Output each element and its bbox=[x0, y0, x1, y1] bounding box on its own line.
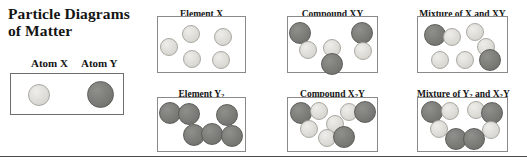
page-title-line2: of Matter bbox=[8, 22, 156, 39]
atom-y-label: Atom Y bbox=[81, 57, 118, 69]
particle-x bbox=[160, 38, 178, 56]
particle-y bbox=[479, 49, 501, 71]
particle-x bbox=[299, 41, 317, 59]
particle-y bbox=[354, 101, 376, 123]
page-title: Particle Diagrams of Matter bbox=[8, 5, 156, 40]
panel-box-element-x bbox=[157, 16, 246, 73]
particle-x bbox=[212, 51, 230, 69]
particle-x bbox=[183, 50, 201, 68]
panel-compound-xy: Compound XY bbox=[287, 9, 378, 73]
page-title-line1: Particle Diagrams bbox=[8, 5, 130, 22]
panel-box-element-y2 bbox=[157, 97, 246, 152]
panel-mixture-y2-x2y: Mixture of Y2 and X2Y bbox=[417, 89, 508, 152]
key-particle-x bbox=[28, 84, 50, 106]
panel-compound-x2y: Compound X2Y bbox=[287, 89, 378, 152]
particle-y bbox=[463, 128, 485, 150]
particle-x bbox=[214, 28, 232, 46]
panel-element-x: Element X bbox=[157, 9, 246, 73]
particle-y bbox=[201, 123, 223, 145]
particle-x bbox=[310, 102, 328, 120]
atom-x-label: Atom X bbox=[31, 57, 68, 69]
particle-diagram-figure: Particle Diagrams of Matter Atom X Atom … bbox=[0, 0, 527, 164]
particle-x bbox=[441, 102, 459, 120]
particle-x bbox=[354, 42, 372, 60]
key-particle-y bbox=[87, 81, 114, 108]
particle-y bbox=[321, 53, 343, 75]
panel-element-y2: Element Y2 bbox=[157, 89, 246, 152]
particle-x bbox=[456, 51, 474, 69]
panel-box-compound-x2y bbox=[287, 97, 378, 152]
horizontal-rule bbox=[0, 156, 527, 157]
panel-box-compound-xy bbox=[287, 16, 378, 73]
particle-x bbox=[431, 51, 449, 69]
panel-box-mixture-y2-x2y bbox=[417, 97, 508, 152]
particle-y bbox=[216, 104, 238, 126]
panel-box-mixture-x-xy bbox=[417, 16, 508, 73]
particle-x bbox=[300, 120, 318, 138]
particle-x bbox=[182, 25, 200, 43]
particle-x bbox=[443, 28, 461, 46]
particle-y bbox=[221, 125, 243, 147]
particle-y bbox=[333, 126, 355, 148]
particle-y bbox=[351, 22, 373, 44]
panel-mixture-x-xy: Mixture of X and XY bbox=[417, 9, 508, 73]
particle-y bbox=[178, 103, 200, 125]
